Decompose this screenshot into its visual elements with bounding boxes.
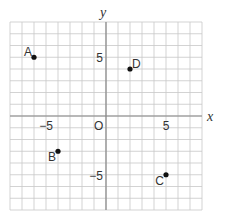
axes: [10, 22, 202, 210]
origin-label: O: [94, 119, 103, 133]
point-a: [31, 55, 36, 60]
x-tick-label: −5: [39, 119, 53, 133]
y-tick-label: 5: [96, 51, 103, 65]
y-axis-label: y: [98, 5, 107, 20]
y-tick-label: −5: [89, 169, 103, 183]
point-label-d: D: [132, 57, 141, 71]
x-tick-label: 5: [163, 119, 170, 133]
point-label-b: B: [48, 150, 56, 164]
point-c: [163, 172, 168, 177]
x-axis-label: x: [206, 109, 214, 124]
coordinate-plane: −555−5 ADBC x y O: [0, 0, 228, 213]
point-label-a: A: [24, 45, 32, 59]
point-label-c: C: [155, 174, 164, 188]
point-b: [55, 149, 60, 154]
